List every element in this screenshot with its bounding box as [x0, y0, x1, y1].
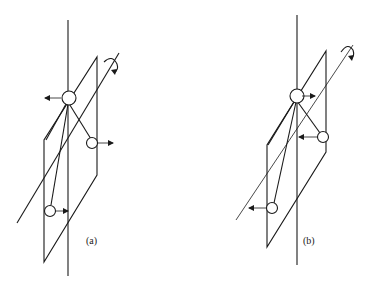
figure-canvas: (a) (b) [0, 0, 375, 287]
panel-label-a: (a) [86, 235, 97, 247]
top-ball [290, 89, 304, 103]
panel-b: (b) [236, 15, 354, 265]
rotation-axis [236, 45, 353, 220]
inclined-plane [44, 57, 97, 262]
right-ball [318, 132, 329, 143]
rod-to-right-ball [297, 101, 320, 133]
top-ball [62, 91, 76, 105]
rod-to-left-ball [51, 104, 68, 205]
left-ball [45, 206, 56, 217]
right-ball [87, 138, 98, 149]
panel-label-b: (b) [303, 235, 315, 247]
left-ball [267, 203, 278, 214]
rod-to-right-ball [68, 102, 91, 139]
rotation-arrowhead-icon [348, 55, 354, 61]
panel-a: (a) [17, 20, 119, 276]
